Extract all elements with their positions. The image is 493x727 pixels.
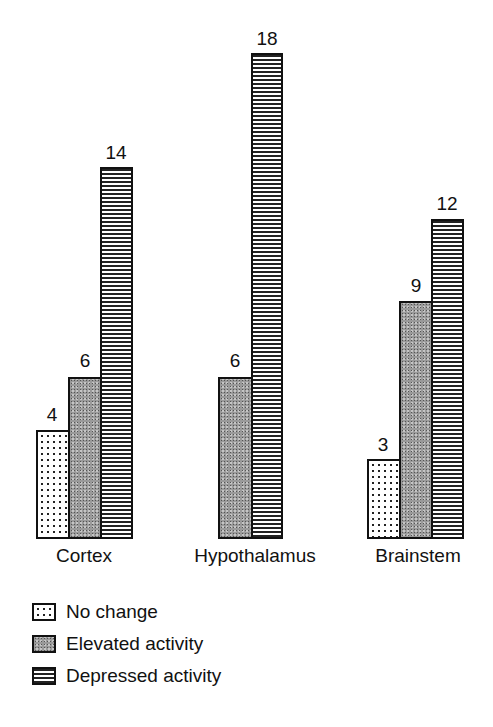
bar-cortex-no-change (36, 430, 70, 539)
value-label: 4 (32, 404, 72, 426)
bar-cortex-elevated (68, 377, 102, 539)
bar-brainstem-no-change (367, 459, 401, 539)
value-label: 3 (363, 434, 403, 456)
bar-brainstem-elevated (399, 301, 433, 539)
bar-hypothalamus-depressed (251, 53, 283, 539)
category-label-cortex: Cortex (24, 545, 144, 567)
value-label: 12 (427, 193, 467, 215)
bar-hypothalamus-elevated (218, 377, 253, 539)
legend-label: Elevated activity (66, 633, 203, 655)
value-label: 6 (215, 350, 255, 372)
value-label: 9 (396, 275, 436, 297)
legend-item-depressed: Depressed activity (32, 660, 221, 692)
legend-item-elevated: Elevated activity (32, 628, 221, 660)
legend: No change Elevated activity Depressed ac… (32, 596, 221, 692)
value-label: 6 (65, 350, 105, 372)
category-label-brainstem: Brainstem (358, 545, 478, 567)
depressed-swatch-icon (32, 667, 56, 685)
value-label: 18 (247, 28, 287, 50)
legend-item-no-change: No change (32, 596, 221, 628)
elevated-swatch-icon (32, 635, 56, 653)
value-label: 14 (96, 142, 136, 164)
category-label-hypothalamus: Hypothalamus (175, 545, 335, 567)
bar-brainstem-depressed (431, 219, 464, 539)
legend-label: No change (66, 601, 158, 623)
no-change-swatch-icon (32, 603, 56, 621)
legend-label: Depressed activity (66, 665, 221, 687)
